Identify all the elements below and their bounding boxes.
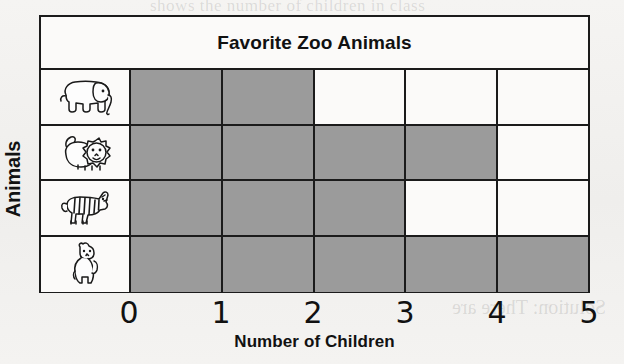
cell-zebra-4 bbox=[406, 181, 498, 235]
row-label-cell-bear bbox=[41, 237, 131, 293]
bear-icon bbox=[61, 240, 109, 288]
row-cells-elephant bbox=[131, 70, 588, 124]
cell-elephant-4 bbox=[406, 70, 498, 124]
row-label-cell-zebra bbox=[41, 181, 131, 235]
cell-lion-3 bbox=[315, 126, 407, 180]
x-tick-3: 3 bbox=[385, 296, 425, 330]
cell-lion-1 bbox=[131, 126, 223, 180]
cell-bear-3 bbox=[315, 237, 407, 293]
y-axis-title: Animals bbox=[2, 104, 25, 254]
x-tick-1: 1 bbox=[201, 296, 241, 330]
cell-elephant-1 bbox=[131, 70, 223, 124]
chart-row-lion bbox=[41, 126, 588, 182]
cell-zebra-1 bbox=[131, 181, 223, 235]
cell-zebra-5 bbox=[498, 181, 588, 235]
x-tick-5: 5 bbox=[569, 296, 609, 330]
chart-title-row: Favorite Zoo Animals bbox=[41, 17, 588, 70]
row-label-cell-elephant bbox=[41, 70, 131, 124]
row-cells-bear bbox=[131, 237, 588, 293]
lion-icon bbox=[54, 129, 116, 175]
cell-lion-5 bbox=[498, 126, 588, 180]
cell-elephant-2 bbox=[223, 70, 315, 124]
x-axis-tick-labels: 0 1 2 3 4 5 bbox=[39, 296, 590, 332]
cell-elephant-3 bbox=[315, 70, 407, 124]
row-label-cell-lion bbox=[41, 126, 131, 180]
chart-grid-box: Favorite Zoo Animals bbox=[39, 15, 590, 293]
cell-bear-4 bbox=[406, 237, 498, 293]
x-tick-0: 0 bbox=[109, 296, 149, 330]
cell-bear-1 bbox=[131, 237, 223, 293]
cell-bear-2 bbox=[223, 237, 315, 293]
cell-lion-2 bbox=[223, 126, 315, 180]
chart-row-bear bbox=[41, 237, 588, 293]
cell-elephant-5 bbox=[498, 70, 588, 124]
x-tick-2: 2 bbox=[293, 296, 333, 330]
chart-plot-area bbox=[41, 70, 588, 293]
chart-title: Favorite Zoo Animals bbox=[217, 32, 412, 54]
cell-zebra-3 bbox=[315, 181, 407, 235]
x-tick-4: 4 bbox=[477, 296, 517, 330]
row-cells-zebra bbox=[131, 181, 588, 235]
chart-row-zebra bbox=[41, 181, 588, 237]
pictograph-bar-chart: Animals Favorite Zoo Animals bbox=[0, 0, 624, 364]
cell-bear-5 bbox=[498, 237, 588, 293]
cell-zebra-2 bbox=[223, 181, 315, 235]
zebra-icon bbox=[54, 185, 116, 231]
row-cells-lion bbox=[131, 126, 588, 180]
chart-row-elephant bbox=[41, 70, 588, 126]
cell-lion-4 bbox=[406, 126, 498, 180]
x-axis-title: Number of Children bbox=[39, 332, 590, 352]
elephant-icon bbox=[54, 75, 116, 119]
